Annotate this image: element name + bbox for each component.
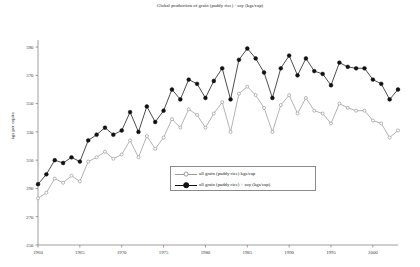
y-tick-label: 290 [26,186,34,191]
data-point [271,96,275,100]
data-point [363,66,367,70]
data-point [312,69,316,73]
data-point [371,119,374,122]
data-point [355,109,358,112]
x-tick-label: 1965 [75,250,85,255]
x-tick-label: 1980 [201,250,211,255]
data-point [262,71,266,75]
data-point [112,157,115,160]
data-point [37,197,40,200]
data-point [187,108,190,111]
legend-marker-grain-soy [183,182,189,188]
data-point [196,113,199,116]
data-point [53,177,56,180]
data-point [195,82,199,86]
data-point [78,180,81,183]
data-point [128,110,132,114]
legend-swatch-grain-icon [175,170,197,178]
data-point [229,130,232,133]
data-point [62,181,65,184]
y-tick-label: 270 [26,215,34,220]
data-point [95,156,98,159]
legend-label-grain: all grain (paddy rice) kgs/cap [197,170,255,178]
data-point [162,109,166,113]
y-tick-label: 370 [26,73,34,78]
data-point [103,126,107,130]
series-line [38,48,398,184]
data-point [396,88,400,92]
data-point [237,92,240,95]
legend-label-grain-soy: all grain (paddy rice) + soy (kgs/cap) [197,181,270,189]
data-point [279,66,283,70]
data-point [137,130,141,134]
x-tick-label: 1970 [117,250,127,255]
data-point [371,78,375,82]
y-tick-label: 310 [26,158,34,163]
x-tick-label: 1990 [284,250,294,255]
data-point [346,106,349,109]
axis-lines [38,40,398,245]
data-point [354,66,358,70]
data-point [338,102,341,105]
legend-item-grain: all grain (paddy rice) kgs/cap [175,169,255,179]
data-point [338,61,342,65]
data-point [397,129,400,132]
data-point [111,133,115,137]
data-point [178,97,182,101]
data-point [70,174,73,177]
data-point [330,122,333,125]
data-point [36,182,40,186]
data-point [145,105,149,109]
data-point [170,118,173,121]
y-tick-label: 330 [26,130,34,135]
data-point [45,191,48,194]
data-point [304,56,308,60]
data-point [296,73,300,77]
data-point [70,155,74,159]
data-point [95,133,99,137]
data-point [388,97,392,101]
data-point [129,139,132,142]
data-point [179,126,182,129]
data-point [329,83,333,87]
data-point [346,65,350,69]
y-tick-label: 250 [26,243,34,248]
data-point [145,135,148,138]
data-point [220,66,224,70]
data-point [53,158,57,162]
legend-item-grain-soy: all grain (paddy rice) + soy (kgs/cap) [175,180,270,190]
legend-swatch-grain-soy-icon [175,181,197,189]
data-point [153,120,157,124]
data-point [162,136,165,139]
data-point [304,96,307,99]
plot-area: 250270290310330350370390 196019651970197… [0,0,420,267]
y-tick-group: 250270290310330350370390 [26,45,38,248]
data-point [187,78,191,82]
x-tick-label: 1995 [326,250,336,255]
data-point [388,136,391,139]
data-point [154,147,157,150]
data-point [246,85,249,88]
data-point [86,138,90,142]
data-point [287,54,291,58]
legend-marker-grain [184,172,189,177]
data-point [254,94,257,97]
x-tick-group: 196019651970197519801985199019952000 [33,245,378,255]
data-point [279,104,282,107]
data-point [363,109,366,112]
data-point [271,130,274,133]
data-point [263,106,266,109]
data-point [229,97,233,101]
data-point [379,82,383,86]
x-tick-label: 1985 [243,250,253,255]
data-point [288,94,291,97]
data-point [212,79,216,83]
x-tick-label: 1975 [159,250,169,255]
data-point [120,129,124,133]
data-point [321,72,325,76]
legend: all grain (paddy rice) kgs/cap all grain… [170,166,316,191]
data-point [87,160,90,163]
data-point [44,172,48,176]
data-point [120,153,123,156]
x-tick-label: 2000 [368,250,378,255]
